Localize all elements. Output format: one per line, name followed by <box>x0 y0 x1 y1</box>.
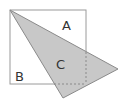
label-b: B <box>15 69 24 84</box>
geometry-diagram: A B C <box>0 0 129 105</box>
label-c: C <box>56 57 65 72</box>
label-a: A <box>62 18 71 33</box>
